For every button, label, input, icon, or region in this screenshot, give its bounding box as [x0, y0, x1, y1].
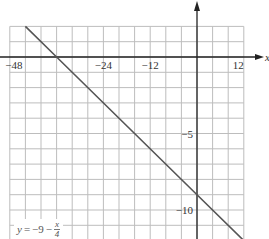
svg-text:−12: −12 — [142, 59, 159, 71]
svg-text:−10: −10 — [176, 204, 194, 216]
fraction-numerator: x — [54, 220, 60, 230]
equation-minus: − — [46, 223, 52, 235]
equation-fraction: x 4 — [54, 220, 60, 239]
svg-text:−24: −24 — [95, 59, 113, 71]
equation-label: y = −9 − x 4 — [14, 219, 63, 239]
equation-lhs: y — [17, 223, 22, 235]
fraction-denominator: 4 — [55, 230, 60, 239]
svg-text:−5: −5 — [181, 128, 193, 140]
svg-text:x: x — [264, 51, 269, 63]
equation-equals: = — [24, 223, 30, 235]
equation-constant: −9 — [32, 223, 44, 235]
svg-text:12: 12 — [233, 59, 244, 71]
chart-canvas: x −48−24−1212−5−10 — [0, 0, 269, 239]
svg-text:−48: −48 — [5, 59, 23, 71]
